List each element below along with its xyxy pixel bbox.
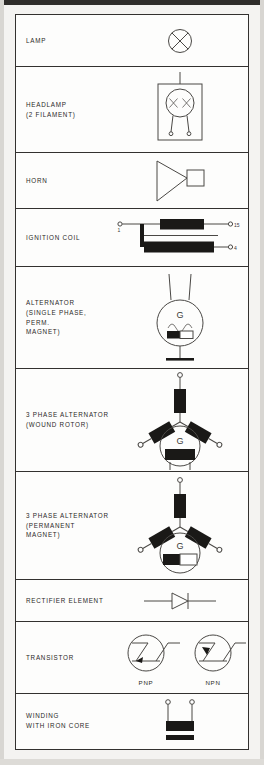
table-row-lamp: LAMP [16,15,248,67]
symbol-headlamp [111,67,248,152]
row-label-lamp: LAMP [16,36,111,46]
table-row-ignition-coil: IGNITION COIL 1 15 [16,209,248,267]
symbol-ignition-coil: 1 15 4 [111,209,248,266]
symbol-lamp [111,15,248,66]
scan-top-edge-artifact [0,0,264,5]
row-label-three-phase-permanent-magnet: 3 PHASE ALTERNATOR (PERMANENT MAGNET) [16,511,111,540]
ignition-coil-icon: 1 15 4 [114,213,246,263]
alternator-machine-letter: G [176,310,183,320]
table-row-horn: HORN [16,153,248,209]
row-label-transistor: TRANSISTOR [16,653,111,663]
scan-bottom-edge-artifact [0,759,264,765]
winding-with-iron-core-icon [153,697,207,745]
scanned-page: LAMP HEADLAMP (2 FILAMENT) [0,0,264,765]
ignition-coil-terminal-4: 4 [234,244,237,250]
row-label-ignition-coil: IGNITION COIL [16,233,111,243]
table-row-three-phase-permanent-magnet: 3 PHASE ALTERNATOR (PERMANENT MAGNET) [16,472,248,580]
symbol-reference-table: LAMP HEADLAMP (2 FILAMENT) [15,14,249,750]
row-label-horn: HORN [16,176,111,186]
table-row-rectifier: RECTIFIER ELEMENT [16,580,248,622]
symbol-three-phase-permanent-magnet: G [111,472,248,579]
three-phase-alternator-permanent-magnet-icon: G [134,475,226,577]
symbol-three-phase-wound-rotor: G [111,369,248,471]
alternator-single-phase-permanent-magnet-icon: G [140,270,220,366]
table-row-transistor: TRANSISTOR PNP [16,622,248,694]
transistor-caption-pnp: PNP [139,679,154,686]
transistor-caption-npn: NPN [205,679,220,686]
symbol-transistor: PNP NPN [111,622,248,693]
npn-transistor-icon [195,635,246,671]
lamp-icon [160,21,200,61]
three-phase-alternator-wound-rotor-icon: G [134,370,226,470]
scan-right-edge-artifact [260,0,264,765]
symbol-winding-iron-core [111,694,248,748]
ignition-coil-terminal-15: 15 [234,221,240,227]
ignition-coil-terminal-1: 1 [117,227,120,233]
headlamp-two-filament-icon [145,70,215,150]
three-phase-permanent-magnet-machine-letter: G [176,541,183,551]
pnp-transistor-icon [128,635,180,671]
symbol-alternator-single-phase: G [111,267,248,368]
transistor-pair-icon: PNP NPN [112,627,247,689]
diode-rectifier-icon [142,588,218,614]
three-phase-wound-rotor-machine-letter: G [176,436,183,446]
table-row-alternator-single-phase: ALTERNATOR (SINGLE PHASE, PERM. MAGNET) … [16,267,248,369]
row-label-rectifier: RECTIFIER ELEMENT [16,596,111,606]
scan-left-edge-artifact [0,0,4,765]
horn-icon [147,158,213,204]
row-label-headlamp: HEADLAMP (2 FILAMENT) [16,100,111,120]
row-label-three-phase-wound-rotor: 3 PHASE ALTERNATOR (WOUND ROTOR) [16,410,111,430]
row-label-alternator-single-phase: ALTERNATOR (SINGLE PHASE, PERM. MAGNET) [16,298,111,337]
row-label-winding-iron-core: WINDING WITH IRON CORE [16,711,111,731]
symbol-rectifier [111,580,248,621]
symbol-horn [111,153,248,208]
table-row-three-phase-wound-rotor: 3 PHASE ALTERNATOR (WOUND ROTOR) [16,369,248,472]
table-row-headlamp: HEADLAMP (2 FILAMENT) [16,67,248,153]
table-row-winding-iron-core: WINDING WITH IRON CORE [16,694,248,748]
